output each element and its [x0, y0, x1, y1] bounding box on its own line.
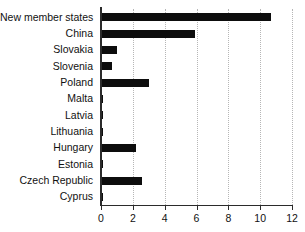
x-axis-tick-label: 12: [277, 212, 305, 224]
x-axis-tick: [260, 206, 261, 210]
y-axis-label: Estonia: [0, 159, 93, 170]
y-axis-label: New member states: [0, 12, 93, 23]
y-axis-label: Poland: [0, 77, 93, 88]
plot-area: [101, 9, 292, 205]
y-axis-label: Lithuania: [0, 126, 93, 137]
y-axis-line: [100, 7, 102, 206]
gridline: [228, 9, 229, 205]
x-axis-tick-label: 6: [182, 212, 212, 224]
y-axis-label: Hungary: [0, 142, 93, 153]
bar: [101, 46, 117, 54]
gridline: [197, 9, 198, 205]
x-axis-tick: [292, 206, 293, 210]
y-axis-category-labels: New member statesChinaSlovakiaSloveniaPo…: [0, 9, 97, 205]
x-axis-tick-label: 2: [118, 212, 148, 224]
gridline: [165, 9, 166, 205]
gridline: [260, 9, 261, 205]
bar: [101, 144, 136, 152]
bar: [101, 30, 195, 38]
y-axis-label: China: [0, 28, 93, 39]
bar: [101, 79, 149, 87]
x-axis-tick-label: 4: [150, 212, 180, 224]
x-axis-tick: [133, 206, 134, 210]
x-axis-tick-label: 8: [213, 212, 243, 224]
y-axis-label: Cyprus: [0, 191, 93, 202]
x-axis-tick: [197, 206, 198, 210]
y-axis-label: Slovakia: [0, 44, 93, 55]
y-axis-label: Slovenia: [0, 61, 93, 72]
y-axis-label: Latvia: [0, 110, 93, 121]
gridline: [292, 9, 293, 205]
y-axis-label: Malta: [0, 93, 93, 104]
bar-chart: New member statesChinaSlovakiaSloveniaPo…: [0, 0, 305, 232]
bar: [101, 62, 112, 70]
x-axis-tick-label: 0: [86, 212, 116, 224]
x-axis-tick: [101, 206, 102, 210]
bar: [101, 13, 271, 21]
x-axis-tick: [228, 206, 229, 210]
x-axis-tick-label: 10: [245, 212, 275, 224]
y-axis-label: Czech Republic: [0, 175, 93, 186]
x-axis-tick: [165, 206, 166, 210]
bar: [101, 177, 142, 185]
